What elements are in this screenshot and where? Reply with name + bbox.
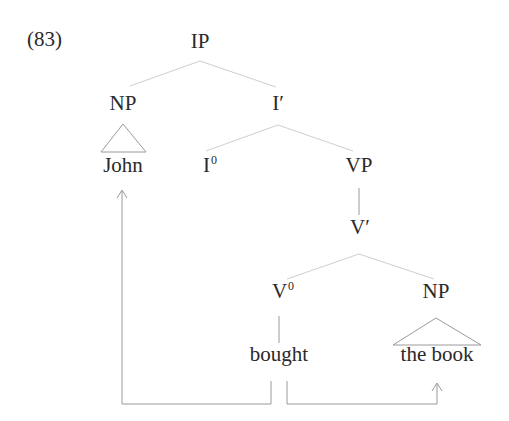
np-triangle-the-book (393, 318, 481, 345)
node-john: John (103, 155, 143, 176)
node-ip: IP (191, 31, 210, 52)
branch-vbar-np (359, 254, 434, 279)
branch-ip-np (130, 61, 200, 86)
arrow-bought-to-the-book (287, 381, 437, 404)
node-np-object: NP (423, 281, 450, 302)
node-i-zero: I0 (203, 155, 217, 176)
node-i-zero-sup: 0 (211, 153, 217, 167)
node-v-zero: V0 (272, 281, 294, 302)
node-v-bar: V′ (350, 217, 370, 238)
node-np-subject: NP (110, 93, 137, 114)
node-i-bar: I′ (272, 93, 284, 114)
branch-ip-ibar (200, 61, 276, 87)
node-the-book: the book (401, 344, 474, 365)
syntax-tree-diagram: (83) IP NP I′ John I0 VP V′ V0 NP bought… (0, 0, 509, 421)
node-i-zero-base: I (203, 153, 210, 177)
branch-ibar-izero (206, 125, 278, 151)
arrow-bought-to-john (122, 191, 271, 404)
branch-vbar-vzero (287, 254, 359, 279)
np-triangle-john (101, 124, 146, 152)
node-vp: VP (346, 155, 373, 176)
node-bought: bought (250, 344, 308, 365)
node-v-zero-sup: 0 (288, 279, 294, 293)
node-v-zero-base: V (272, 279, 287, 303)
branch-ibar-vp (278, 125, 353, 151)
example-number: (83) (27, 29, 62, 50)
